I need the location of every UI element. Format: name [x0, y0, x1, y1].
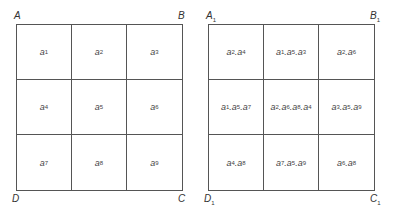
right-cell-2: a1.a5.a3: [264, 25, 319, 80]
corner-label-a: A: [14, 10, 21, 21]
corner-label-c1: C1: [370, 193, 381, 206]
cell-sub: 1: [45, 49, 48, 55]
cell-sub: 4: [45, 104, 48, 110]
right-cell-5: a2.a6.a8.a4: [264, 80, 319, 135]
corner-label-a1: A1: [206, 10, 216, 23]
left-cell-8: a8: [72, 135, 127, 190]
cell-sub: 8: [100, 160, 103, 166]
corner-sub: 1: [377, 17, 380, 23]
cell-sub: 5: [100, 104, 103, 110]
left-cell-3: a3: [127, 25, 182, 80]
left-cell-4: a4: [17, 80, 72, 135]
right-cell-1: a2.a4: [209, 25, 264, 80]
left-cell-9: a9: [127, 135, 182, 190]
term-sub: 8: [353, 160, 356, 166]
term-sub: 6: [353, 49, 356, 55]
corner-label-d: D: [12, 193, 19, 204]
right-cell-7: a4.a8: [209, 135, 264, 190]
term-sub: 7: [248, 104, 251, 110]
left-cell-5: a5: [72, 80, 127, 135]
cell-sub: 3: [155, 49, 158, 55]
right-cell-4: a1.a5.a7: [209, 80, 264, 135]
right-cell-6: a3.a5.a9: [319, 80, 374, 135]
right-grid: a2.a4 a1.a5.a3 a2.a6 a1.a5.a7 a2.a6.a8.a…: [208, 24, 375, 191]
right-cell-8: a7.a5.a9: [264, 135, 319, 190]
corner-base: B: [370, 10, 377, 21]
left-cell-6: a6: [127, 80, 182, 135]
cell-sub: 9: [155, 160, 158, 166]
corner-label-c: C: [178, 193, 185, 204]
left-cell-2: a2: [72, 25, 127, 80]
cell-sub: 6: [155, 104, 158, 110]
term-sub: 3: [303, 49, 306, 55]
term-sub: 4: [308, 104, 311, 110]
corner-base: A: [206, 10, 213, 21]
left-grid: a1 a2 a3 a4 a5 a6 a7 a8 a9: [16, 24, 183, 191]
corner-label-b: B: [178, 10, 185, 21]
term-sub: 8: [242, 160, 245, 166]
cell-sub: 7: [45, 160, 48, 166]
corner-label-b1: B1: [370, 10, 380, 23]
right-cell-3: a2.a6: [319, 25, 374, 80]
corner-sub: 1: [213, 17, 216, 23]
cell-sub: 2: [100, 49, 103, 55]
term-sub: 9: [303, 160, 306, 166]
right-cell-9: a6.a8: [319, 135, 374, 190]
term-sub: 9: [358, 104, 361, 110]
left-cell-7: a7: [17, 135, 72, 190]
corner-sub: 1: [211, 200, 214, 206]
left-cell-1: a1: [17, 25, 72, 80]
corner-label-d1: D1: [204, 193, 215, 206]
term-sub: 4: [242, 49, 245, 55]
corner-sub: 1: [377, 200, 380, 206]
